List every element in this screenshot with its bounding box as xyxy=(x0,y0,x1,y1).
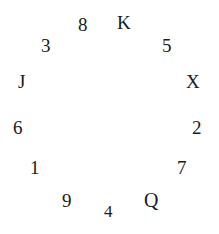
glyph-7: 7 xyxy=(177,158,187,177)
glyph-5: 5 xyxy=(162,36,172,55)
glyph-1: 1 xyxy=(30,158,40,177)
glyph-2: 2 xyxy=(192,118,202,137)
glyph-j: J xyxy=(18,72,25,91)
circular-glyph-canvas: 8K5X27Q4916J3 xyxy=(0,0,219,234)
glyph-3: 3 xyxy=(41,36,51,55)
glyph-x: X xyxy=(186,72,200,91)
glyph-8: 8 xyxy=(78,15,88,34)
glyph-k: K xyxy=(117,13,131,32)
glyph-6: 6 xyxy=(13,118,23,137)
glyph-9: 9 xyxy=(62,191,72,210)
glyph-4: 4 xyxy=(104,203,113,220)
glyph-q: Q xyxy=(144,190,158,210)
